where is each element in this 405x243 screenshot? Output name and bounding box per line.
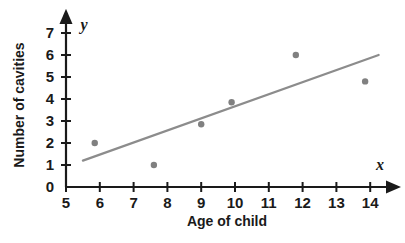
data-point	[228, 99, 234, 105]
y-tick-label: 1	[46, 156, 54, 173]
x-axis-title: Age of child	[187, 213, 267, 229]
data-point	[293, 52, 299, 58]
y-tick-label: 2	[46, 134, 54, 151]
x-tick-label: 7	[129, 194, 137, 211]
y-tick-label: 4	[46, 90, 55, 107]
y-tick-label: 6	[46, 46, 54, 63]
x-axis-symbol: x	[375, 156, 384, 173]
y-tick-label: 3	[46, 112, 54, 129]
y-axis-symbol: y	[78, 16, 88, 34]
data-point	[198, 121, 204, 127]
data-point	[151, 162, 157, 168]
data-point	[92, 140, 98, 146]
x-tick-label: 8	[163, 194, 171, 211]
x-tick-label: 6	[96, 194, 104, 211]
x-tick-label: 14	[362, 194, 379, 211]
x-tick-label: 10	[227, 194, 244, 211]
x-tick-label: 13	[328, 194, 345, 211]
scatter-chart: 567891011121314 x Age of child 01234567 …	[0, 0, 405, 243]
data-point	[362, 78, 368, 84]
y-tick-label: 0	[46, 178, 54, 195]
x-tick-label: 9	[197, 194, 205, 211]
y-tick-label: 7	[46, 24, 54, 41]
x-tick-label: 12	[294, 194, 311, 211]
x-tick-label: 11	[261, 194, 277, 211]
x-tick-label: 5	[62, 194, 70, 211]
y-tick-label: 5	[46, 68, 54, 85]
chart-canvas: 567891011121314 x Age of child 01234567 …	[0, 0, 405, 243]
y-axis-title: Number of cavities	[11, 42, 27, 167]
